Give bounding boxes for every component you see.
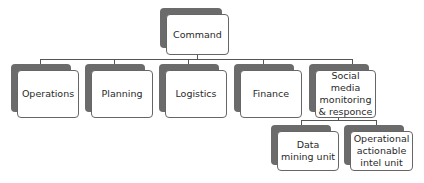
node-operational-intel-label: Operational actionable intel unit xyxy=(350,131,413,171)
connector-level2-bus xyxy=(301,120,377,121)
node-operations-label: Operations xyxy=(17,70,79,118)
connector-level1-bus xyxy=(40,59,353,60)
node-logistics-label: Logistics xyxy=(165,70,227,118)
node-planning-label: Planning xyxy=(91,70,153,118)
node-social-media-label: Social media monitoring & responce xyxy=(315,70,376,118)
node-data-mining-label: Data mining unit xyxy=(277,131,339,171)
node-command-label: Command xyxy=(166,14,229,55)
node-finance-label: Finance xyxy=(240,70,302,118)
